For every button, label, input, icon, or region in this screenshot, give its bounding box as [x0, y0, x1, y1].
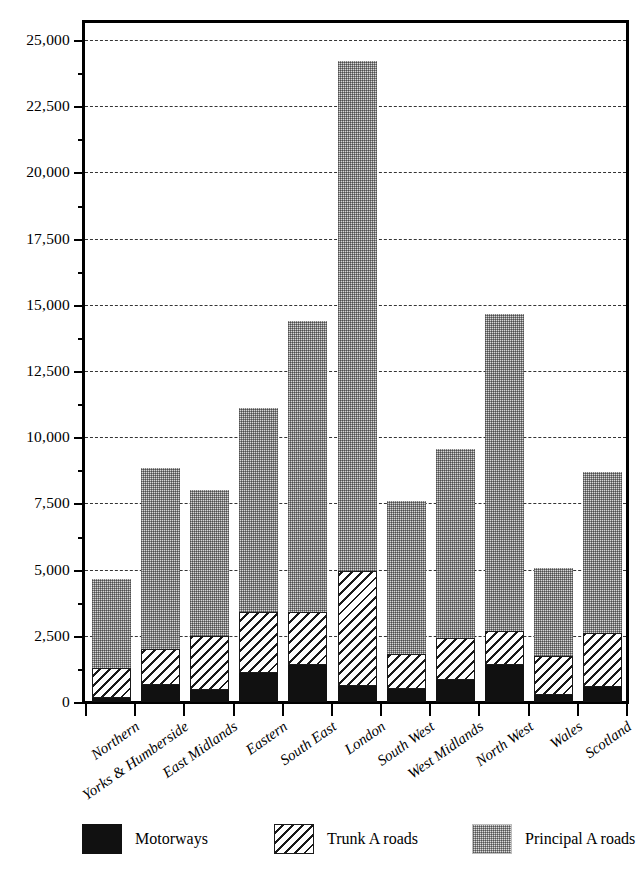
- bar-segment-principal-a-roads: [190, 490, 229, 636]
- bar-segment-trunk-a-roads: [534, 656, 573, 696]
- bar-segment-principal-a-roads: [92, 579, 131, 668]
- bar-segment-principal-a-roads: [436, 449, 475, 638]
- bar-segment-trunk-a-roads: [583, 633, 622, 687]
- bar-segment-motorways: [338, 686, 377, 702]
- y-axis-tick-minor: [78, 206, 85, 208]
- y-axis-tick-label: 17,500: [26, 230, 70, 248]
- y-axis-tick-minor: [78, 537, 85, 539]
- bar-segment-principal-a-roads: [239, 408, 278, 612]
- x-axis-category-label: Wales: [547, 718, 586, 752]
- stipple-grey-swatch: [472, 824, 512, 854]
- y-axis-tick-minor: [78, 73, 85, 75]
- bar-segment-trunk-a-roads: [239, 612, 278, 673]
- y-axis-tick-minor: [78, 139, 85, 141]
- y-axis-tick-label: 10,000: [26, 428, 70, 446]
- bar-segment-motorways: [141, 685, 180, 702]
- y-axis-tick-label: 15,000: [26, 296, 70, 314]
- y-axis-tick-minor: [78, 338, 85, 340]
- bar-segment-principal-a-roads: [338, 61, 377, 571]
- bar-segment-motorways: [436, 680, 475, 703]
- stacked-bar: [485, 314, 524, 702]
- y-axis-tick-minor: [78, 470, 85, 472]
- y-axis-tick-label: 5,000: [34, 561, 70, 579]
- y-axis-tick-label: 20,000: [26, 163, 70, 181]
- solid-black-swatch: [82, 824, 122, 854]
- chart-figure: 25,00022,50020,00017,50015,00012,50010,0…: [0, 0, 641, 883]
- bar-segment-principal-a-roads: [534, 568, 573, 655]
- bar-segment-trunk-a-roads: [485, 631, 524, 665]
- stacked-bar: [583, 472, 622, 702]
- bar-segment-principal-a-roads: [583, 472, 622, 634]
- bar-segment-trunk-a-roads: [141, 649, 180, 685]
- y-axis-tick-major: [74, 40, 85, 42]
- y-axis-tick-minor: [78, 272, 85, 274]
- bar-segment-trunk-a-roads: [387, 654, 426, 688]
- stacked-bar: [338, 61, 377, 702]
- bar-segment-trunk-a-roads: [92, 668, 131, 698]
- bar-segment-motorways: [239, 673, 278, 702]
- plot-area: [82, 20, 629, 704]
- bar-segment-principal-a-roads: [141, 468, 180, 649]
- diagonal-hatch-swatch: [274, 824, 314, 854]
- stacked-bar: [92, 579, 131, 702]
- y-axis-tick-major: [74, 305, 85, 307]
- y-axis-tick-major: [74, 636, 85, 638]
- y-axis-tick-major: [74, 570, 85, 572]
- legend-item: Principal A roads: [472, 822, 635, 856]
- y-axis-tick-label: 2,500: [34, 627, 70, 645]
- bar-segment-trunk-a-roads: [288, 612, 327, 665]
- y-axis-tick-minor: [78, 603, 85, 605]
- stacked-bar: [288, 321, 327, 702]
- gridline: [85, 40, 626, 41]
- bar-segment-motorways: [92, 698, 131, 702]
- x-axis-category-label: Scotland: [582, 718, 635, 762]
- legend-label: Principal A roads: [525, 830, 635, 848]
- bar-segment-motorways: [583, 687, 622, 702]
- y-axis-tick-label: 7,500: [34, 494, 70, 512]
- legend-item: Trunk A roads: [274, 822, 418, 856]
- bar-segment-motorways: [534, 695, 573, 702]
- y-axis-tick-major: [74, 503, 85, 505]
- y-axis-tick-label: 22,500: [26, 97, 70, 115]
- bar-segment-motorways: [387, 689, 426, 702]
- legend-label: Trunk A roads: [327, 830, 418, 848]
- y-axis-tick-minor: [78, 669, 85, 671]
- y-axis-tick-major: [74, 437, 85, 439]
- y-axis-tick-major: [74, 239, 85, 241]
- bar-segment-trunk-a-roads: [190, 636, 229, 690]
- bar-segment-principal-a-roads: [387, 501, 426, 655]
- y-axis-tick-minor: [78, 404, 85, 406]
- stacked-bar: [436, 449, 475, 702]
- y-axis-tick-label: 25,000: [26, 31, 70, 49]
- bar-segment-motorways: [190, 690, 229, 702]
- y-axis-tick-major: [74, 371, 85, 373]
- plot-inner: [85, 23, 626, 701]
- x-axis-label-group: NorthernYorks & HumbersideEast MidlandsE…: [0, 704, 641, 814]
- stacked-bar: [141, 468, 180, 702]
- y-axis-tick-label: 12,500: [26, 362, 70, 380]
- bar-segment-principal-a-roads: [288, 321, 327, 612]
- stacked-bar: [190, 490, 229, 702]
- y-axis-tick-major: [74, 106, 85, 108]
- legend-label: Motorways: [135, 830, 208, 848]
- bar-segment-motorways: [288, 665, 327, 702]
- legend-item: Motorways: [82, 822, 208, 856]
- chart-legend: MotorwaysTrunk A roadsPrincipal A roads: [82, 822, 602, 864]
- bar-segment-principal-a-roads: [485, 314, 524, 630]
- bar-segment-trunk-a-roads: [338, 571, 377, 686]
- stacked-bar: [387, 501, 426, 702]
- bar-segment-trunk-a-roads: [436, 638, 475, 679]
- stacked-bar: [534, 568, 573, 702]
- stacked-bar: [239, 408, 278, 702]
- bar-segment-motorways: [485, 665, 524, 702]
- y-axis-tick-major: [74, 172, 85, 174]
